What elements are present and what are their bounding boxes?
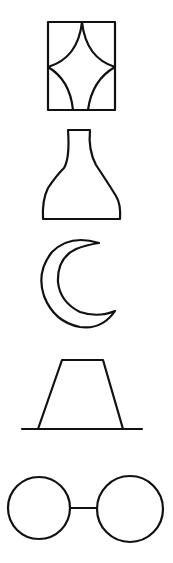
outer-rectangle [48,22,115,110]
dumbbell-shape [8,476,163,542]
diamond-left-curves [48,22,82,110]
trapezoid-outline [38,360,123,429]
right-circle [97,476,163,542]
bottle-shape [43,130,120,219]
shape-diagram [0,0,173,563]
left-circle [8,477,70,539]
rectangle-diamond-shape [48,22,115,110]
diamond-right-curves [82,22,115,110]
crescent-shape [41,240,115,327]
trapezoid-shape [22,360,142,429]
crescent-outline [41,240,115,327]
bottle-outline [43,130,120,219]
